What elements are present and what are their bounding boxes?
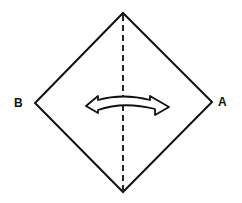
origami-diagram bbox=[0, 0, 242, 203]
corner-label-a: A bbox=[218, 96, 227, 108]
corner-label-b: B bbox=[14, 97, 23, 109]
double-arrow-icon bbox=[86, 96, 169, 115]
